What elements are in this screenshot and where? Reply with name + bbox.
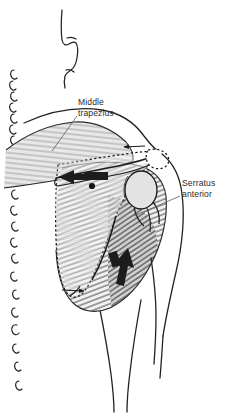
scapular-tubercle xyxy=(89,183,95,189)
anatomy-figure: Middle trapezius Serratus anterior xyxy=(0,0,235,416)
label-serratus-anterior: Serratus anterior xyxy=(182,178,215,199)
label-serratus-anterior-line1: Serratus xyxy=(182,178,215,188)
anatomy-illustration-svg: Middle trapezius Serratus anterior xyxy=(0,0,235,416)
label-serratus-anterior-line2: anterior xyxy=(182,189,212,199)
label-middle-trapezius-line2: trapezius xyxy=(78,108,114,118)
label-middle-trapezius-line1: Middle xyxy=(78,97,104,107)
